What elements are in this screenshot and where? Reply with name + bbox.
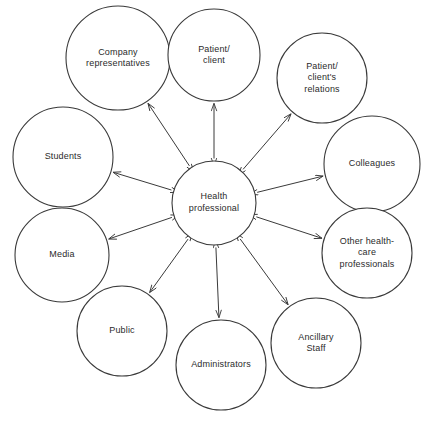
link-health-professional-to-administrators xyxy=(216,247,219,317)
node-label-company-representatives: Company xyxy=(98,47,138,57)
node-label-colleagues: Colleagues xyxy=(349,158,396,168)
node-label-other-health-care-professionals: care xyxy=(358,247,376,257)
relationship-diagram: CompanyrepresentativesPatient/clientPati… xyxy=(0,0,428,427)
node-label-patient-client-relations: client's xyxy=(308,72,337,82)
node-label-patient-client-relations: Patient/ xyxy=(306,61,338,71)
node-label-administrators: Administrators xyxy=(191,359,251,369)
link-health-professional-to-students xyxy=(113,172,171,190)
link-health-professional-to-other-health-care-professionals xyxy=(256,217,322,238)
node-label-company-representatives: representatives xyxy=(86,58,150,68)
node-label-other-health-care-professionals: professionals xyxy=(340,259,395,269)
node-patient-client[interactable]: Patient/client xyxy=(168,9,260,101)
node-other-health-care-professionals[interactable]: Other health-careprofessionals xyxy=(322,208,412,298)
diagram-canvas: CompanyrepresentativesPatient/clientPati… xyxy=(0,0,428,427)
node-colleagues[interactable]: Colleagues xyxy=(324,116,420,212)
node-label-patient-client-relations: relations xyxy=(304,84,340,94)
node-administrators[interactable]: Administrators xyxy=(176,320,266,410)
node-label-ancillary-staff: Staff xyxy=(306,343,325,353)
node-label-other-health-care-professionals: Other health- xyxy=(340,236,394,246)
center-node-layer: Healthprofessional xyxy=(172,161,256,245)
node-label-public: Public xyxy=(109,325,135,335)
node-label-patient-client: Patient/ xyxy=(198,44,230,54)
node-label-health-professional: Health xyxy=(201,191,228,201)
node-label-health-professional: professional xyxy=(189,203,239,213)
node-patient-client-relations[interactable]: Patient/client'srelations xyxy=(277,33,367,123)
node-label-patient-client: client xyxy=(203,55,225,65)
link-health-professional-to-ancillary-staff xyxy=(240,239,288,305)
node-media[interactable]: Media xyxy=(15,208,109,302)
link-health-professional-to-patient-client-relations xyxy=(243,114,291,169)
link-health-professional-to-public xyxy=(150,239,188,292)
link-health-professional-to-media xyxy=(109,217,172,239)
node-public[interactable]: Public xyxy=(77,286,167,376)
node-label-media: Media xyxy=(49,249,74,259)
node-label-ancillary-staff: Ancillary xyxy=(298,332,334,342)
node-label-students: Students xyxy=(45,151,82,161)
node-health-professional[interactable]: Healthprofessional xyxy=(172,161,256,245)
link-health-professional-to-colleagues xyxy=(257,176,323,192)
node-students[interactable]: Students xyxy=(13,107,113,207)
node-ancillary-staff[interactable]: AncillaryStaff xyxy=(271,298,361,388)
link-health-professional-to-company-representatives xyxy=(148,103,189,165)
node-company-representatives[interactable]: Companyrepresentatives xyxy=(66,6,170,110)
